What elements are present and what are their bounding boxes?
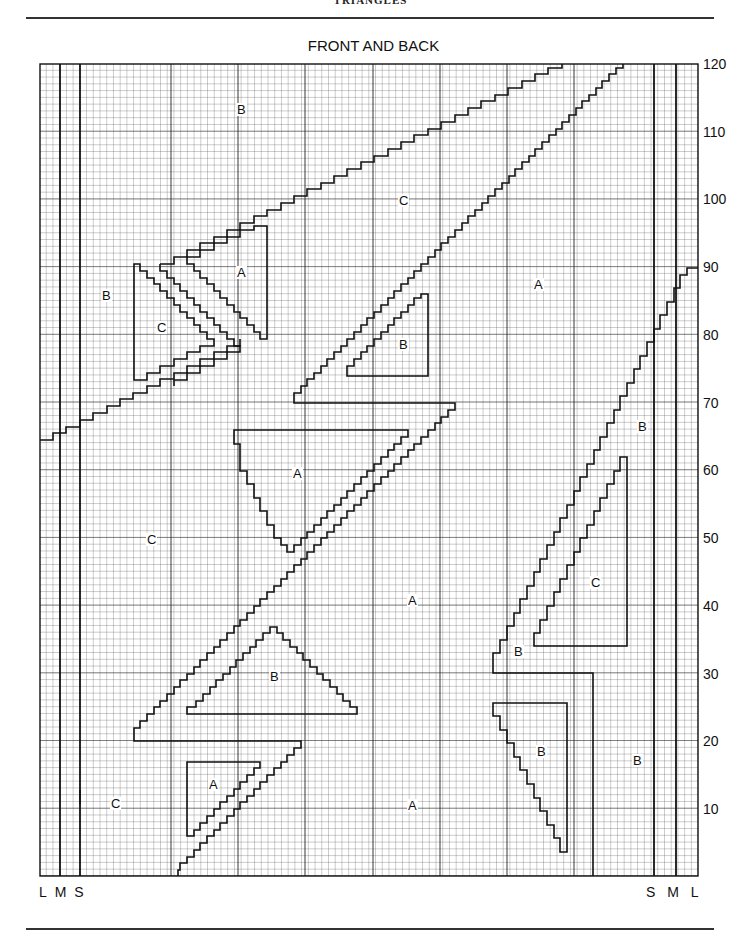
row-label-70: 70 — [703, 395, 719, 411]
zone-label-a: A — [208, 778, 219, 791]
zone-label-c: C — [590, 576, 601, 589]
zone-label-a: A — [236, 266, 247, 279]
row-label-30: 30 — [703, 666, 719, 682]
size-label-M-left: M — [55, 884, 67, 900]
row-label-40: 40 — [703, 598, 719, 614]
row-label-120: 120 — [703, 56, 726, 72]
row-label-60: 60 — [703, 462, 719, 478]
row-label-90: 90 — [703, 259, 719, 275]
row-label-50: 50 — [703, 530, 719, 546]
zone-label-b: B — [536, 745, 547, 758]
row-label-20: 20 — [703, 733, 719, 749]
zone-label-a: A — [407, 594, 418, 607]
zone-label-b: B — [236, 103, 247, 116]
zone-label-b: B — [269, 670, 280, 683]
zone-label-a: A — [407, 799, 418, 812]
row-label-80: 80 — [703, 327, 719, 343]
size-label-L-left: L — [39, 884, 47, 900]
zone-label-c: C — [398, 194, 409, 207]
size-label-L-right: L — [691, 884, 699, 900]
zone-label-a: A — [292, 467, 303, 480]
size-markers-left: L M S — [39, 884, 88, 900]
row-label-10: 10 — [703, 801, 719, 817]
bottom-rule — [26, 928, 714, 930]
zone-label-b: B — [513, 645, 524, 658]
row-label-110: 110 — [703, 124, 725, 140]
zone-label-b: B — [637, 420, 648, 433]
zone-label-c: C — [156, 321, 167, 334]
row-label-100: 100 — [703, 191, 726, 207]
zone-label-c: C — [146, 533, 157, 546]
zone-label-b: B — [632, 754, 643, 767]
size-markers-right: S M L — [646, 884, 703, 900]
zone-label-b: B — [101, 289, 112, 302]
size-label-S-left: S — [74, 884, 83, 900]
zone-label-c: C — [110, 797, 121, 810]
zone-label-b: B — [398, 338, 409, 351]
zone-label-a: A — [533, 278, 544, 291]
size-label-M-right: M — [667, 884, 679, 900]
size-label-S-right: S — [646, 884, 655, 900]
